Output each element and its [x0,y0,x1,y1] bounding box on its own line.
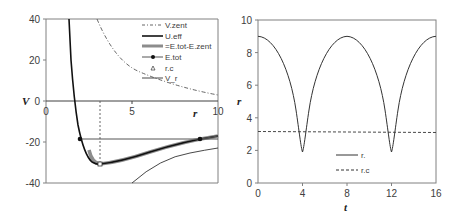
r-c-marker [98,162,102,166]
y-tick-label: 8 [246,48,252,59]
x-tick-label: 12 [386,188,398,199]
y-tick-label: 10 [241,15,253,26]
legend-label: U.eff [165,32,183,41]
right-chart: 10 8 6 4 2 0 0 4 8 12 16 r t r. r.c [237,15,442,213]
y-tick-label: 0 [246,178,252,189]
legend-label: V.zent [165,21,188,30]
x-axis-label: r [193,107,198,119]
right-y-ticks: 10 8 6 4 2 0 [241,15,258,189]
x-tick-label: 4 [300,188,306,199]
legend-label: r.c [165,64,173,73]
series-u-eff [69,19,218,164]
triangle-icon [151,66,155,70]
x-tick-label: 10 [212,106,224,117]
y-axis-label: r [237,95,242,107]
right-legend: r. r.c [336,151,369,175]
right-plot-frame [258,20,436,183]
legend-label: r. [361,151,365,160]
x-tick-label: 0 [255,188,261,199]
right-x-ticks: 0 4 8 12 16 [255,183,442,199]
y-axis-label: V [22,95,31,107]
legend-label: V_r [165,74,178,83]
left-legend: V.zent U.eff =E.tot-E.zent E.tot r.c V_r [142,21,212,83]
x-tick-label: 5 [129,106,135,117]
legend-label: =E.tot-E.zent [165,42,212,51]
y-tick-label: -20 [26,137,41,148]
e-tot-marker [198,137,203,142]
legend-label: E.tot [165,53,182,62]
y-tick-label: 20 [29,55,41,66]
series-r [258,36,436,152]
y-tick-label: 4 [246,113,252,124]
figure: 40 20 0 -20 -40 0 5 10 V r [0,0,460,220]
y-tick-label: 40 [29,14,41,25]
y-tick-label: 6 [246,80,252,91]
x-tick-label: 8 [344,188,350,199]
x-tick-label: 16 [430,188,442,199]
y-tick-label: 0 [34,96,40,107]
x-axis-label: t [344,201,348,213]
legend-label: r.c [361,166,369,175]
y-tick-label: 2 [246,145,252,156]
left-chart: 40 20 0 -20 -40 0 5 10 V r [22,14,224,189]
e-tot-marker [78,137,83,142]
x-tick-label: 0 [43,106,49,117]
y-tick-label: -40 [26,178,41,189]
series-r-c [258,132,436,133]
